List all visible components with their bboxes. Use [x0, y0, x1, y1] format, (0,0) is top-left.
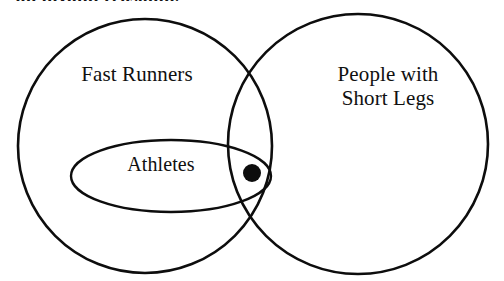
element-dot-marker [243, 164, 261, 182]
set-circle-people-with-short-legs [228, 14, 488, 274]
venn-diagram-figure: an invalid reasoning Fast Runners People… [0, 0, 504, 281]
set-label-people-with-short-legs: People withShort Legs [300, 62, 476, 111]
set-label-fast-runners: Fast Runners [52, 62, 222, 86]
set-label-line-1: People with [338, 62, 439, 86]
venn-diagram-canvas [0, 0, 504, 281]
subset-label-athletes: Athletes [101, 153, 221, 176]
set-label-line-2: Short Legs [342, 86, 435, 110]
set-circle-fast-runners [18, 19, 272, 273]
